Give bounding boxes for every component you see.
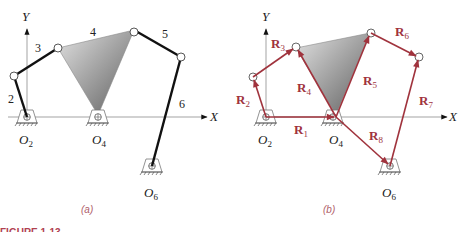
ground-pivot-o6: [140, 159, 163, 175]
vector-label-r7: R7: [419, 93, 433, 110]
vector-label-r8: R8: [369, 128, 383, 145]
ternary-link-4: [296, 33, 370, 115]
link-label-5: 5: [162, 27, 168, 41]
vector-label-r5: R5: [363, 73, 377, 90]
joint-pin: [177, 53, 185, 61]
link-label-6: 6: [179, 97, 185, 111]
pivot-label-o2: O2: [258, 132, 272, 149]
pivot-label-o4: O4: [329, 132, 343, 149]
link-6: [152, 57, 181, 166]
vector-r6: [371, 33, 416, 56]
panel-a: X Y 2 3 4 5 6 O2 O4 O6 (a): [8, 9, 219, 215]
pivot-label-o4: O4: [92, 132, 106, 149]
y-axis-label: Y: [262, 9, 271, 24]
pivot-label-o2: O2: [19, 132, 33, 149]
vector-label-r6: R6: [395, 24, 409, 41]
pivot-label-o6: O6: [382, 185, 396, 202]
ternary-link-4: [58, 30, 134, 115]
vector-r3: [253, 49, 293, 77]
vector-label-r1: R1: [294, 122, 308, 139]
joint-pin: [415, 53, 423, 61]
link-label-4: 4: [90, 25, 96, 39]
ground-pivot-o6: [378, 159, 401, 175]
vector-label-r2: R2: [236, 92, 250, 109]
figure-caption: FIGURE 1-13: [0, 227, 61, 232]
pivot-label-o6: O6: [144, 185, 158, 202]
link-5: [134, 30, 181, 57]
panel-a-label: (a): [81, 204, 93, 215]
ground-pivot-o4: [86, 110, 109, 126]
link-label-3: 3: [35, 41, 41, 55]
y-axis-label: Y: [22, 9, 31, 24]
joint-pin: [10, 72, 18, 80]
x-axis-label: X: [209, 109, 219, 124]
link-label-2: 2: [8, 92, 14, 106]
joint-pin: [130, 28, 138, 36]
mechanism-figure: X Y 2 3 4 5 6 O2 O4 O6 (a) X Y: [0, 0, 462, 232]
panel-b-label: (b): [323, 204, 335, 215]
vector-label-r4: R4: [297, 80, 311, 97]
vector-r7: [390, 60, 418, 166]
vector-label-r3: R3: [271, 36, 285, 53]
ground-pivot-o2: [254, 110, 277, 126]
joint-pin: [54, 44, 62, 52]
x-axis-label: X: [448, 109, 458, 124]
panel-b: X Y R1 R2 R3 R4 R5 R6 R7 R8 O2: [236, 9, 458, 215]
